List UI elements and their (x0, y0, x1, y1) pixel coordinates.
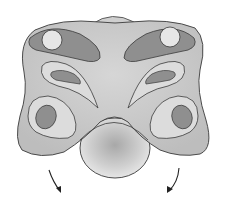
right-light-spot (160, 27, 180, 47)
left-light-spot (42, 30, 62, 50)
butterfly-diagram (0, 0, 225, 218)
right-arrow (169, 168, 179, 191)
diagram-canvas (0, 0, 225, 218)
